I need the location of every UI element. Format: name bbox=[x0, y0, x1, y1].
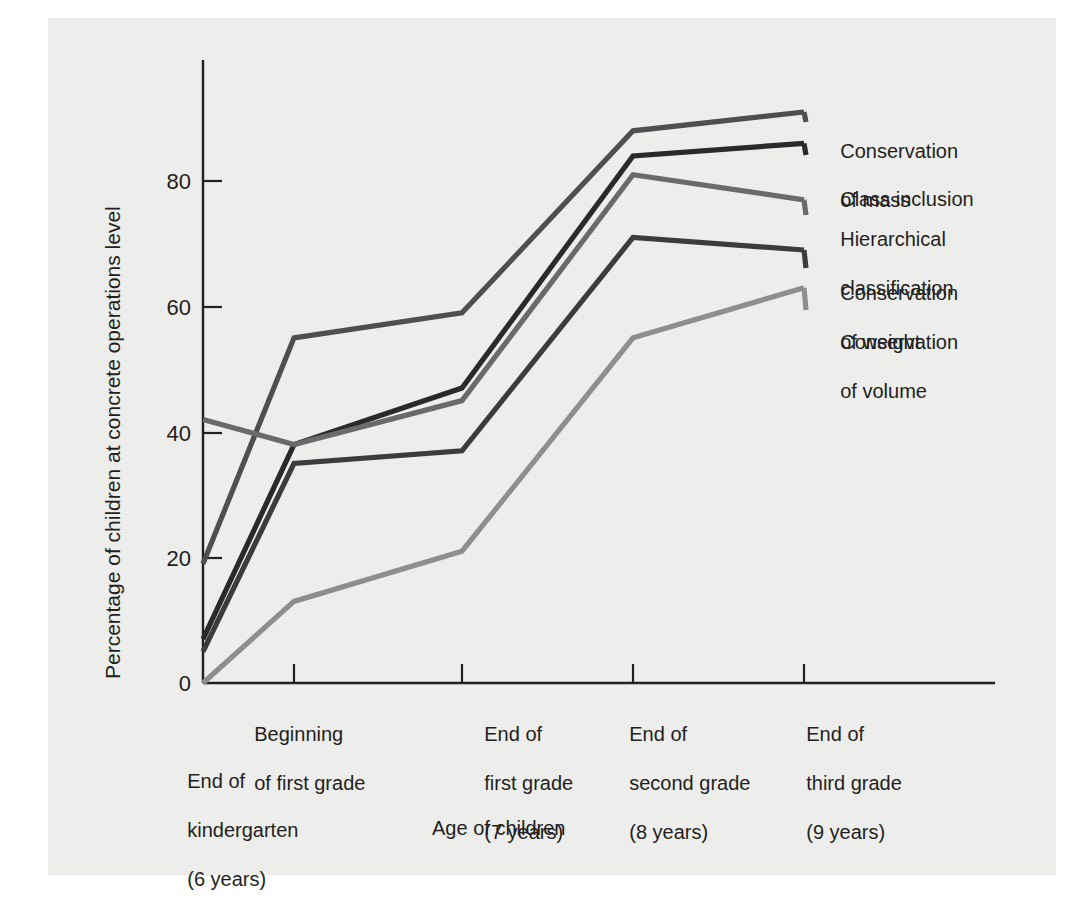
x-tick-line3: (8 years) bbox=[629, 821, 708, 843]
origin-line2: kindergarten bbox=[187, 819, 298, 841]
x-tick-line1: End of bbox=[629, 723, 687, 745]
legend-line1: Conservation bbox=[840, 331, 958, 353]
x-tick-label-end-third-grade: End of third grade (9 years) bbox=[784, 698, 902, 869]
x-tick-line1: Beginning bbox=[254, 723, 343, 745]
legend-connector-conservation-of-volume bbox=[804, 288, 806, 310]
x-tick-line1: End of bbox=[806, 723, 864, 745]
y-tick-marks bbox=[203, 181, 222, 558]
legend-connector-class-inclusion bbox=[804, 143, 806, 155]
x-tick-line2: second grade bbox=[629, 772, 750, 794]
x-axis-title: Age of children bbox=[432, 816, 565, 840]
y-tick-label-40: 40 bbox=[147, 421, 191, 448]
series-group bbox=[203, 112, 804, 683]
y-axis-title: Percentage of children at concrete opera… bbox=[101, 249, 125, 679]
x-tick-label-end-kindergarten: End of kindergarten (6 years) bbox=[165, 745, 298, 916]
legend-connector-conservation-of-weight bbox=[804, 250, 806, 268]
legend-line2: of volume bbox=[840, 380, 927, 402]
x-tick-line1: End of bbox=[484, 723, 542, 745]
legend-connector-hierarchical-classification bbox=[804, 200, 806, 215]
origin-line1: End of bbox=[187, 770, 245, 792]
x-tick-marks bbox=[294, 664, 804, 683]
x-tick-label-end-second-grade: End of second grade (8 years) bbox=[607, 698, 750, 869]
legend-rules-group bbox=[804, 112, 806, 310]
origin-line3: (6 years) bbox=[187, 868, 266, 890]
legend-connector-conservation-of-mass bbox=[804, 112, 806, 122]
y-tick-label-80: 80 bbox=[147, 169, 191, 196]
series-line-class-inclusion bbox=[203, 143, 804, 639]
x-tick-line2: first grade bbox=[484, 772, 573, 794]
page-canvas: 80 60 40 20 0 Percentage of children at … bbox=[0, 0, 1077, 922]
x-tick-line2: third grade bbox=[806, 772, 902, 794]
series-line-hierarchical-classification bbox=[203, 175, 804, 445]
x-tick-line3: (9 years) bbox=[806, 821, 885, 843]
y-tick-label-0: 0 bbox=[147, 671, 191, 698]
x-tick-label-end-first-grade: End of first grade (7 years) bbox=[462, 698, 573, 869]
y-tick-label-20: 20 bbox=[147, 546, 191, 573]
legend-line1: Hierarchical bbox=[840, 228, 946, 250]
y-tick-label-60: 60 bbox=[147, 295, 191, 322]
legend-item-conservation-of-volume: Conservation of volume bbox=[818, 306, 958, 428]
legend-line1: Conservation bbox=[840, 140, 958, 162]
legend-line1: Conservation bbox=[840, 282, 958, 304]
